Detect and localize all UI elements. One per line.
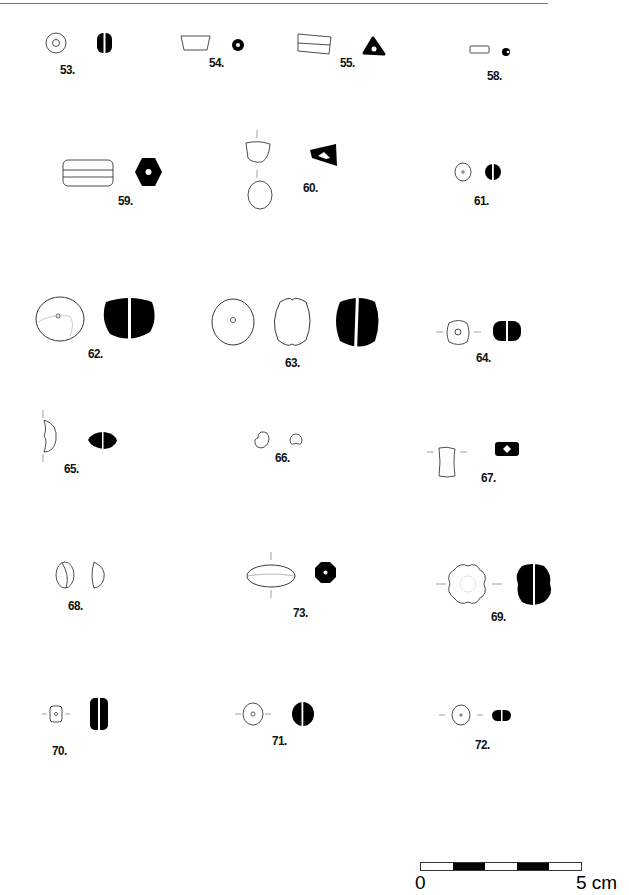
bead-71-drawing	[233, 700, 323, 730]
bead-67-drawing	[425, 440, 530, 485]
bead-72-drawing	[437, 704, 527, 729]
bead-55-label: 55.	[340, 55, 355, 70]
bead-71-label: 71.	[272, 733, 287, 748]
bead-69-label: 69.	[491, 609, 506, 624]
bead-61-label: 61.	[474, 193, 489, 208]
bead-66-label: 66.	[275, 450, 290, 465]
header-rule	[0, 3, 548, 4]
bead-68-drawing	[52, 560, 112, 592]
bead-65-label: 65.	[64, 461, 79, 476]
scale-start-label: 0	[415, 872, 426, 894]
bead-63-label: 63.	[285, 355, 300, 370]
scale-end-label: 5 cm	[576, 872, 617, 894]
bead-58-drawing	[468, 44, 528, 62]
bead-63-drawing	[210, 296, 390, 351]
bead-59-label: 59.	[118, 193, 133, 208]
bead-64-label: 64.	[476, 350, 491, 365]
bead-59-drawing	[60, 155, 170, 190]
bead-60-drawing	[240, 128, 340, 213]
bead-53-drawing	[40, 30, 120, 60]
bead-64-drawing	[435, 318, 535, 348]
bead-65-drawing	[40, 410, 110, 465]
bead-62-label: 62.	[88, 346, 103, 361]
bead-68-label: 68.	[68, 598, 83, 613]
bead-58-label: 58.	[487, 68, 502, 83]
bead-70-label: 70.	[52, 743, 67, 758]
bead-66-drawing	[252, 430, 312, 452]
bead-70-drawing	[40, 696, 120, 734]
bead-73-label: 73.	[293, 605, 308, 620]
bead-73-drawing	[242, 550, 352, 605]
bead-67-label: 67.	[481, 470, 496, 485]
scale-bar	[420, 862, 582, 871]
bead-60-label: 60.	[303, 180, 318, 195]
bead-69-drawing	[432, 560, 562, 610]
bead-54-label: 54.	[209, 55, 224, 70]
bead-61-drawing	[452, 160, 522, 185]
bead-53-label: 53.	[60, 62, 75, 77]
bead-62-drawing	[30, 294, 170, 344]
bead-72-label: 72.	[475, 737, 490, 752]
